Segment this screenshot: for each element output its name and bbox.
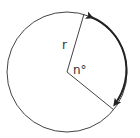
radius-label: r (62, 38, 67, 52)
arc-arrow (91, 17, 126, 104)
radius-line-lower (67, 72, 114, 110)
angle-label: n° (73, 63, 87, 77)
circle-diagram: r n° (0, 0, 140, 138)
